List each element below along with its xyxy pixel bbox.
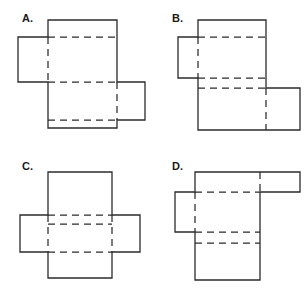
net-folds-a	[48, 37, 117, 120]
box-nets-figure: A. B. C.	[0, 0, 308, 295]
panel-d: D.	[172, 160, 300, 280]
panel-label-a: A.	[22, 12, 33, 24]
panel-a: A.	[18, 12, 145, 128]
net-outline-a	[18, 20, 145, 128]
net-outline-d	[175, 172, 300, 280]
panel-label-d: D.	[172, 160, 183, 172]
panel-label-b: B.	[172, 12, 183, 24]
panel-c: C.	[20, 160, 140, 278]
net-folds-d	[195, 172, 260, 243]
figure-root: A. B. C.	[0, 0, 308, 295]
net-folds-c	[48, 215, 112, 252]
net-outline-c	[20, 172, 140, 278]
panel-label-c: C.	[22, 160, 33, 172]
panel-b: B.	[172, 12, 300, 130]
net-folds-b	[198, 37, 266, 130]
